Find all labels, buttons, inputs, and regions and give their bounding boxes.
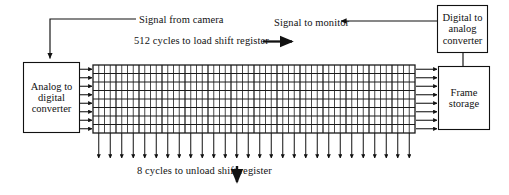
analog-to-digital-converter-box [24, 63, 80, 133]
grid-to-frame-storage-arrows [416, 69, 437, 129]
signal-from-camera-connector [50, 19, 136, 59]
signal-to-monitor-label: Signal to monitor [274, 17, 349, 28]
unload-shift-register-label: 8 cycles to unload shift register [137, 165, 272, 176]
adc-to-grid-arrows [80, 69, 92, 129]
digital-to-analog-converter-box [438, 6, 488, 53]
frame-storage-box [439, 67, 490, 130]
unload-shift-register-arrows [99, 133, 410, 158]
signal-from-camera-label: Signal from camera [139, 14, 224, 25]
load-shift-register-label: 512 cycles to load shift register [134, 35, 269, 46]
diagram-root: Analog to digital converter Frame storag… [0, 0, 509, 195]
shift-register-grid [93, 65, 415, 133]
